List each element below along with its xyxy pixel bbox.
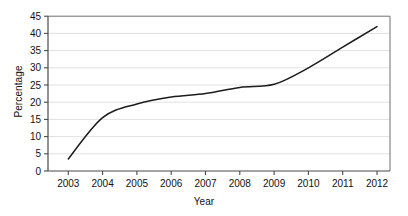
y-tick-label-35: 35 [30, 45, 42, 56]
axes [48, 16, 390, 171]
y-tick-label-0: 0 [35, 166, 41, 177]
x-tick-label-2005: 2005 [126, 178, 149, 189]
y-tick-label-45: 45 [30, 11, 42, 22]
chart-plot-area: 0 5 10 15 20 25 30 35 40 45 2003 2004 [0, 0, 408, 216]
x-tick-label-2010: 2010 [297, 178, 320, 189]
x-axis-title: Year [0, 196, 408, 207]
x-tick-label-2004: 2004 [91, 178, 114, 189]
x-tick-label-2012: 2012 [366, 178, 389, 189]
y-tick-label-40: 40 [30, 28, 42, 39]
x-tick-label-2003: 2003 [57, 178, 80, 189]
gridlines [48, 33, 390, 153]
y-tick-label-20: 20 [30, 97, 42, 108]
y-axis-tick-labels: 0 5 10 15 20 25 30 35 40 45 [30, 11, 42, 177]
y-axis-title: Percentage [13, 42, 24, 142]
x-tick-label-2011: 2011 [332, 178, 354, 189]
y-tick-label-30: 30 [30, 62, 42, 73]
plot-frame [48, 16, 390, 171]
x-axis-ticks [68, 171, 377, 175]
x-axis-tick-labels: 2003 2004 2005 2006 2007 2008 2009 2010 … [57, 178, 388, 189]
x-tick-label-2006: 2006 [160, 178, 183, 189]
y-tick-label-5: 5 [35, 148, 41, 159]
y-tick-label-15: 15 [30, 114, 42, 125]
x-tick-label-2007: 2007 [194, 178, 217, 189]
y-tick-label-25: 25 [30, 80, 42, 91]
y-tick-label-10: 10 [30, 131, 42, 142]
line-chart: 0 5 10 15 20 25 30 35 40 45 2003 2004 [0, 0, 408, 216]
data-series-line [68, 27, 377, 159]
x-tick-label-2008: 2008 [229, 178, 252, 189]
x-tick-label-2009: 2009 [263, 178, 286, 189]
